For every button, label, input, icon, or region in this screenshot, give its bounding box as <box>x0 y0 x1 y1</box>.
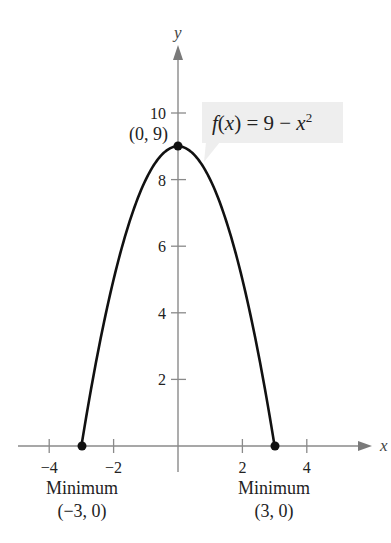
right-minimum-title: Minimum <box>238 478 310 498</box>
y-tick-label: 6 <box>158 238 166 255</box>
x-tick-label: 4 <box>303 459 311 476</box>
function-label: f(x) = 9 − x2 <box>212 110 312 135</box>
x-tick-label: 2 <box>238 459 246 476</box>
x-tick-label: −2 <box>105 459 122 476</box>
apex-label: (0, 9) <box>129 124 168 145</box>
x-tick-label: −4 <box>41 459 58 476</box>
y-tick-label: 4 <box>158 305 166 322</box>
right-minimum-point <box>271 442 280 451</box>
callout-pointer <box>204 142 220 162</box>
axes: x y <box>18 23 388 472</box>
y-tick-label: 10 <box>150 105 166 122</box>
right-minimum-coords: (3, 0) <box>255 501 294 522</box>
left-minimum-coords: (−3, 0) <box>57 501 106 522</box>
x-axis-arrow-icon <box>358 441 372 451</box>
function-callout: f(x) = 9 − x2 <box>202 102 343 162</box>
parabola-chart: x y −4−224 246810 f(x) = 9 − x2 (0, 9) M… <box>0 0 391 543</box>
apex-point <box>174 142 183 151</box>
left-minimum-title: Minimum <box>46 478 118 498</box>
y-tick-label: 2 <box>158 371 166 388</box>
left-minimum-point <box>78 442 87 451</box>
y-axis-label: y <box>172 23 182 42</box>
x-axis-label: x <box>379 436 388 455</box>
y-axis-arrow-icon <box>173 45 183 60</box>
y-tick-label: 8 <box>158 172 166 189</box>
